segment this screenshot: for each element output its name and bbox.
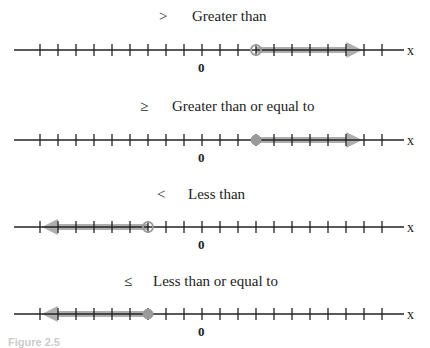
axis-variable-label: x <box>407 220 414 235</box>
origin-label: 0 <box>198 324 205 339</box>
origin-label: 0 <box>198 60 205 75</box>
origin-label: 0 <box>198 150 205 165</box>
axis-variable-label: x <box>407 43 414 58</box>
closed-circle-icon <box>143 309 153 319</box>
axis-variable-label: x <box>407 133 414 148</box>
axis-variable-label: x <box>407 307 414 322</box>
closed-circle-icon <box>251 135 261 145</box>
figure-caption: Figure 2.5 <box>8 336 60 348</box>
origin-label: 0 <box>198 237 205 252</box>
